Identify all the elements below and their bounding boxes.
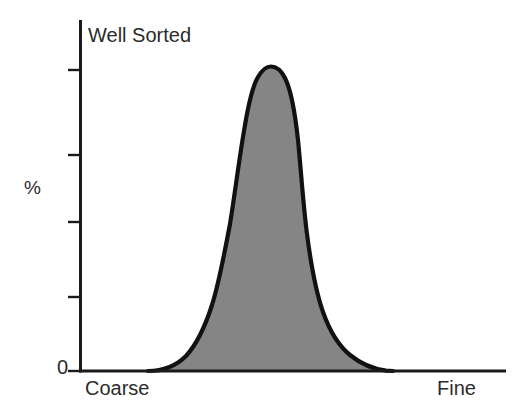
y-axis-label: %	[24, 178, 41, 197]
page-title: Well Sorted	[88, 25, 191, 45]
distribution-chart-svg	[0, 0, 523, 417]
chart-container: Well Sorted % 0 Coarse Fine	[0, 0, 523, 417]
x-axis-label-coarse: Coarse	[85, 378, 149, 398]
distribution-curve-fill	[80, 67, 390, 372]
x-axis-label-fine: Fine	[437, 378, 476, 398]
y-axis-zero-label: 0	[57, 357, 68, 377]
